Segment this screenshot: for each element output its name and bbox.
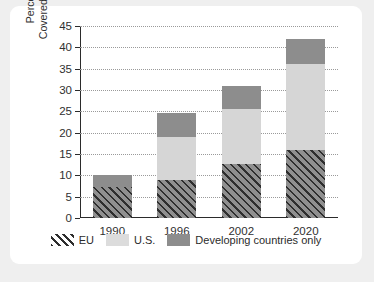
y-axis-tick-label: 35	[59, 63, 72, 75]
bar-segment[interactable]	[222, 109, 261, 164]
y-axis-tick-label: 20	[59, 127, 72, 139]
bar-group[interactable]	[286, 26, 325, 218]
legend-item[interactable]: EU	[51, 234, 94, 246]
y-axis-tick-mark	[75, 69, 80, 70]
bar-segment[interactable]	[93, 175, 132, 187]
legend-swatch	[51, 234, 74, 246]
y-axis-title: Percentage of World Trade Covered by Reg…	[22, 0, 52, 56]
bar-group[interactable]	[157, 26, 196, 218]
bar-segment[interactable]	[222, 164, 261, 218]
plot-area: 051015202530354045 1990199620022020	[80, 26, 338, 218]
legend-label: U.S.	[134, 234, 155, 246]
chart-card: Percentage of World Trade Covered by Reg…	[10, 6, 362, 264]
y-axis-tick-label: 25	[59, 105, 72, 117]
y-axis-tick-label: 40	[59, 41, 72, 53]
y-axis-tick-mark	[75, 197, 80, 198]
y-axis-tick-label: 0	[66, 212, 72, 224]
bar-group[interactable]	[93, 26, 132, 218]
legend-swatch	[167, 234, 190, 246]
y-axis-tick-mark	[75, 133, 80, 134]
y-axis-tick-label: 30	[59, 84, 72, 96]
y-axis-tick-mark	[75, 26, 80, 27]
legend-item[interactable]: Developing countries only	[167, 234, 321, 246]
y-axis-tick-mark	[75, 175, 80, 176]
y-axis-tick-mark	[75, 90, 80, 91]
stacked-bar-chart: Percentage of World Trade Covered by Reg…	[10, 6, 362, 264]
y-axis-tick-mark	[75, 47, 80, 48]
y-axis-tick-mark	[75, 218, 80, 219]
bar-segment[interactable]	[157, 113, 196, 136]
bar-group[interactable]	[222, 26, 261, 218]
y-axis-title-line-1: Percentage of World Trade	[24, 0, 38, 23]
legend-label: EU	[79, 234, 94, 246]
y-axis-tick-label: 5	[66, 191, 72, 203]
bar-segment[interactable]	[286, 64, 325, 149]
bar-segment[interactable]	[157, 137, 196, 181]
bar-segment[interactable]	[93, 187, 132, 218]
legend-item[interactable]: U.S.	[106, 234, 155, 246]
chart-legend: EUU.S.Developing countries only	[10, 234, 362, 246]
bar-segment[interactable]	[286, 150, 325, 218]
y-axis-tick-mark	[75, 111, 80, 112]
legend-label: Developing countries only	[195, 234, 321, 246]
bar-segment[interactable]	[157, 180, 196, 218]
y-axis-tick-mark	[75, 154, 80, 155]
y-axis-tick-label: 15	[59, 148, 72, 160]
legend-swatch	[106, 234, 129, 246]
bar-segment[interactable]	[222, 86, 261, 109]
y-axis-tick-label: 10	[59, 169, 72, 181]
y-axis-title-line-2: Covered by Regional Agreements	[37, 0, 51, 39]
y-axis-tick-label: 45	[59, 20, 72, 32]
bar-segment[interactable]	[286, 39, 325, 65]
